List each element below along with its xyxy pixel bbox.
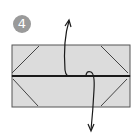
top-panel [12, 45, 130, 76]
origami-diagram [0, 0, 139, 138]
bottom-panel [12, 76, 130, 107]
